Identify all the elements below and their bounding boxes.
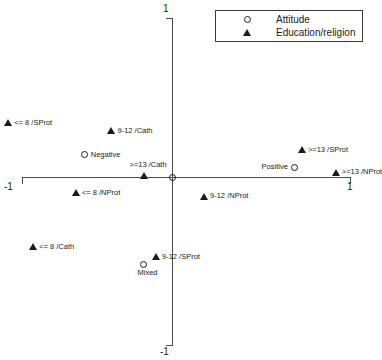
triangle-marker-icon <box>107 127 115 134</box>
data-point-label: Positive <box>262 163 288 171</box>
data-point-label: Mixed <box>138 269 158 277</box>
legend-row-education-religion: Education/religion <box>216 26 362 40</box>
triangle-marker-icon <box>200 193 208 200</box>
triangle-marker-icon <box>298 146 306 153</box>
circle-marker-icon <box>140 261 147 268</box>
data-point-label: >=13 /SProt <box>308 146 348 154</box>
circle-marker-icon <box>242 13 252 27</box>
data-point-label: 9-12 /SProt <box>162 253 200 261</box>
triangle-marker-icon <box>152 253 160 260</box>
circle-marker-icon <box>291 164 298 171</box>
y-axis <box>172 18 173 345</box>
chart-legend: Attitude Education/religion <box>215 10 363 42</box>
legend-label-attitude: Attitude <box>276 14 310 26</box>
x-tick-max: 1 <box>347 182 353 192</box>
data-point-label: >=13 /NProt <box>342 168 382 176</box>
data-point-label: <= 8 /Cath <box>39 243 74 251</box>
triangle-marker-icon <box>140 172 148 179</box>
legend-label-education-religion: Education/religion <box>276 27 356 39</box>
triangle-marker-icon <box>29 243 37 250</box>
legend-row-attitude: Attitude <box>216 13 362 27</box>
x-tick-min: -1 <box>4 182 13 192</box>
y-tick-max: 1 <box>163 4 169 14</box>
data-point-label: >=13 /Cath <box>130 161 167 169</box>
x-axis <box>22 177 350 178</box>
x-axis-left-cap <box>22 177 23 184</box>
triangle-marker-icon <box>72 189 80 196</box>
data-point-label: Negative <box>91 151 121 159</box>
data-point-label: 9-12 /NProt <box>210 192 248 200</box>
y-axis-top-cap <box>166 18 173 19</box>
data-point-label: <= 8 /NProt <box>82 189 120 197</box>
clipped-caption-strip <box>0 354 379 360</box>
triangle-marker-icon <box>242 26 252 40</box>
triangle-marker-icon <box>332 169 340 176</box>
circle-marker-icon <box>169 174 176 181</box>
triangle-marker-icon <box>4 119 12 126</box>
circle-marker-icon <box>81 151 88 158</box>
data-point-label: 9-12 /Cath <box>117 127 152 135</box>
data-point-label: <= 8 /SProt <box>14 119 52 127</box>
